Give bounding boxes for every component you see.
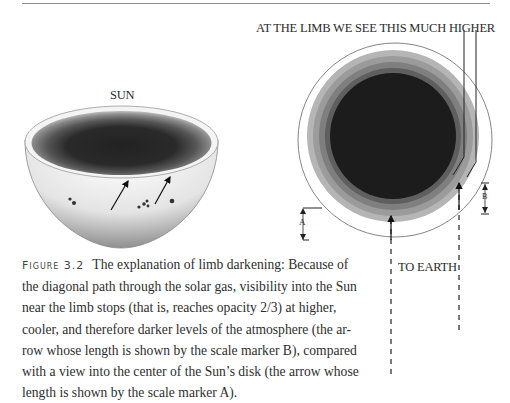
figure-number: Figure 3.2	[22, 259, 84, 272]
caption-line-3: near the limb stops (that is, reaches op…	[22, 297, 327, 318]
limb-label: AT THE LIMB WE SEE THIS MUCH HIGHER	[256, 21, 495, 36]
marker-b-label: B	[482, 192, 487, 201]
sun-label: SUN	[110, 88, 134, 103]
caption-line-7: length is shown by the scale marker A).	[22, 382, 327, 403]
caption-line-2: the diagonal path through the solar gas,…	[22, 276, 327, 297]
figure-caption: Figure 3.2The explanation of limb darken…	[22, 254, 327, 403]
caption-line-1: Figure 3.2The explanation of limb darken…	[22, 254, 327, 276]
marker-a-label: A	[299, 217, 305, 227]
caption-line-4: cooler, and therefore darker levels of t…	[22, 319, 327, 340]
sun-hemisphere	[25, 106, 218, 248]
to-earth-label: TO EARTH	[398, 260, 457, 275]
caption-line-5: row whose length is shown by the scale m…	[22, 340, 327, 361]
caption-line-6: with a view into the center of the Sun’s…	[22, 361, 327, 382]
